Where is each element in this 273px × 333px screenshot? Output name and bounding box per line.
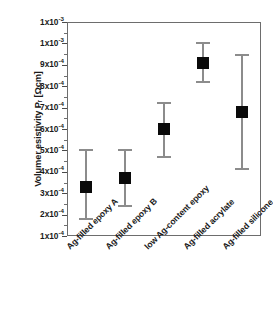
x-axis-tick-labels: Ag-filled epoxy AAg-filled epoxy Blow Ag… — [0, 0, 273, 333]
x-tick-label: low Ag-content epoxy — [142, 183, 211, 252]
chart-figure: Volumer esistivity Pᵣ [Ωcm] 1x10-31x10-3… — [0, 0, 273, 333]
